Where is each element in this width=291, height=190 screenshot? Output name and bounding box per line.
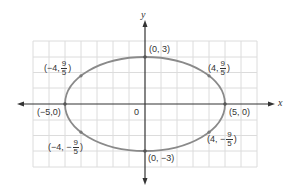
point-upper-left [79,74,82,77]
label-right: (5, 0) [229,108,250,117]
ellipse-diagram: y x 0 (0, 3) (0, −3) (−5,0) (5, 0) (−4, … [0,0,291,190]
fraction: 9 5 [226,131,232,148]
label-lower-left: (−4, − 9 5 ) [48,139,83,156]
axes [17,20,275,185]
point-bottom [143,149,147,153]
point-lower-left [79,131,82,134]
x-axis-left-arrow-icon [17,102,24,107]
x-axis-right-arrow-icon [268,102,275,107]
y-axis-label: y [141,10,145,20]
origin-label: 0 [134,108,139,117]
point-top [143,55,147,59]
label-lower-right: (4, − 9 5 ) [207,131,237,148]
label-top: (0, 3) [149,45,170,54]
fraction: 9 5 [73,139,79,156]
x-axis-label: x [278,98,282,108]
y-axis-down-arrow-icon [143,178,148,185]
y-axis-up-arrow-icon [143,20,148,27]
label-left: (−5,0) [37,108,61,117]
ellipse-plot [0,0,291,190]
fraction: 9 5 [61,60,67,77]
label-bottom: (0, −3) [148,154,174,163]
label-upper-right: (4, 9 5 ) [208,60,230,77]
fraction: 9 5 [220,60,226,77]
label-upper-left: (−4, 9 5 ) [44,60,71,77]
point-left [63,102,67,106]
point-right [223,102,227,106]
